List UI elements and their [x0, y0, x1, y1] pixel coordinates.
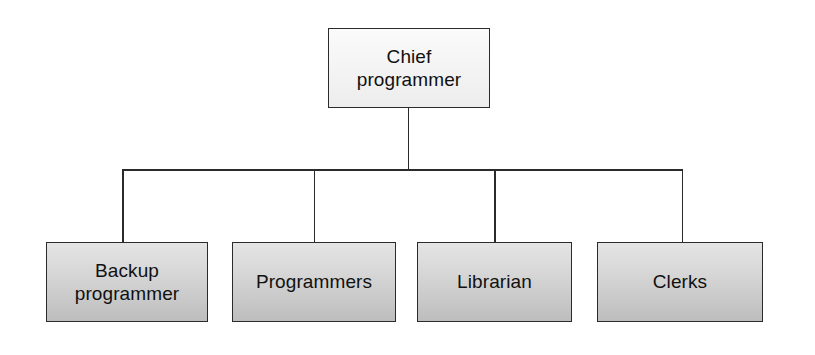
connector-trunk-chief-to-bus — [408, 108, 410, 170]
node-chief-programmer: Chief programmer — [328, 28, 490, 108]
node-backup-programmer: Backup programmer — [46, 242, 208, 322]
node-librarian-label: Librarian — [457, 270, 532, 293]
node-clerks-label: Clerks — [653, 270, 707, 293]
node-clerks: Clerks — [597, 242, 763, 322]
node-librarian: Librarian — [417, 242, 572, 322]
connector-drop-librarian — [494, 170, 496, 242]
node-programmers: Programmers — [232, 242, 396, 322]
org-chart-canvas: Chief programmer Backup programmer Progr… — [0, 0, 815, 355]
connector-drop-clerks — [682, 170, 684, 242]
node-chief-programmer-label: Chief programmer — [357, 45, 461, 91]
node-backup-programmer-label: Backup programmer — [75, 259, 179, 305]
connector-horizontal-bus — [122, 169, 683, 171]
connector-drop-programmers — [314, 170, 316, 242]
node-programmers-label: Programmers — [256, 270, 372, 293]
connector-drop-backup-programmer — [122, 170, 124, 242]
